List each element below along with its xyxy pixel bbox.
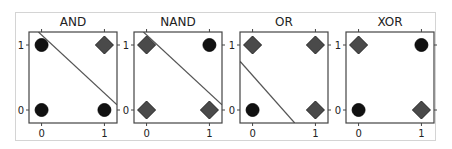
panel-title: AND <box>60 15 86 29</box>
x-tick-label: 0 <box>249 128 255 139</box>
y-tick-label: 0 <box>335 105 341 116</box>
panel-or: OR0011 <box>229 15 331 139</box>
x-tick-label: 1 <box>418 128 424 139</box>
circle-marker <box>246 104 259 117</box>
x-tick-label: 0 <box>143 128 149 139</box>
panel-title: XOR <box>377 15 402 29</box>
y-tick-label: 1 <box>335 40 341 51</box>
diamond-marker <box>95 36 113 54</box>
x-tick-label: 1 <box>312 128 318 139</box>
diamond-marker <box>412 101 430 119</box>
y-tick-label: 0 <box>18 105 24 116</box>
y-tick-label: 0 <box>123 105 129 116</box>
diamond-marker <box>138 36 156 54</box>
circle-marker <box>415 39 428 52</box>
diamond-marker <box>306 101 324 119</box>
logic-gates-chart: AND0011NAND0011OR0011XOR0011 <box>0 0 452 149</box>
circle-marker <box>35 39 48 52</box>
panel-title: OR <box>275 15 293 29</box>
x-tick-label: 1 <box>101 128 107 139</box>
panel-xor: XOR0011 <box>335 15 437 139</box>
circle-marker <box>203 39 216 52</box>
y-tick-label: 1 <box>123 40 129 51</box>
panel-title: NAND <box>160 15 195 29</box>
circle-marker <box>352 104 365 117</box>
diamond-marker <box>350 36 368 54</box>
diamond-marker <box>306 36 324 54</box>
y-tick-label: 1 <box>18 40 24 51</box>
x-tick-label: 0 <box>355 128 361 139</box>
diamond-marker <box>138 101 156 119</box>
x-tick-label: 0 <box>38 128 44 139</box>
x-tick-label: 1 <box>206 128 212 139</box>
diamond-marker <box>200 101 218 119</box>
panel-and: AND0011 <box>18 15 120 139</box>
y-tick-label: 0 <box>229 105 235 116</box>
y-tick-label: 1 <box>229 40 235 51</box>
diamond-marker <box>244 36 262 54</box>
panel-nand: NAND0011 <box>123 15 225 139</box>
circle-marker <box>98 104 111 117</box>
circle-marker <box>35 104 48 117</box>
